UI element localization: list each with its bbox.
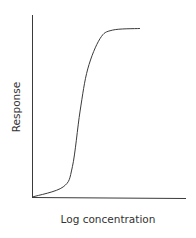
dose-response-chart: Log concentration Response (0, 0, 196, 238)
y-axis-label: Response (10, 82, 22, 132)
x-axis (32, 198, 186, 199)
x-axis-label: Log concentration (61, 213, 156, 225)
response-curve (33, 28, 140, 197)
